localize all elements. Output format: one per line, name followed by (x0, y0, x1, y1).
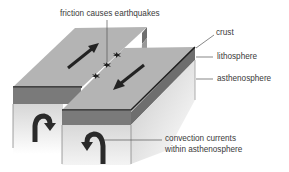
crust-label: crust (216, 28, 234, 38)
left-plate-asthenosphere (13, 104, 63, 154)
convection-label-line2: within asthenosphere (165, 145, 242, 155)
friction-label: friction causes earthquakes (60, 9, 160, 19)
right-plate-asthenosphere (62, 125, 131, 165)
asthenosphere-label: asthenosphere (217, 74, 271, 84)
convection-label-line1: convection currents (165, 134, 236, 144)
lithosphere-label: lithosphere (217, 52, 257, 62)
crust-leader-line (196, 35, 214, 48)
plate-boundary-diagram (0, 0, 289, 172)
right-plate-lithosphere (62, 111, 131, 125)
